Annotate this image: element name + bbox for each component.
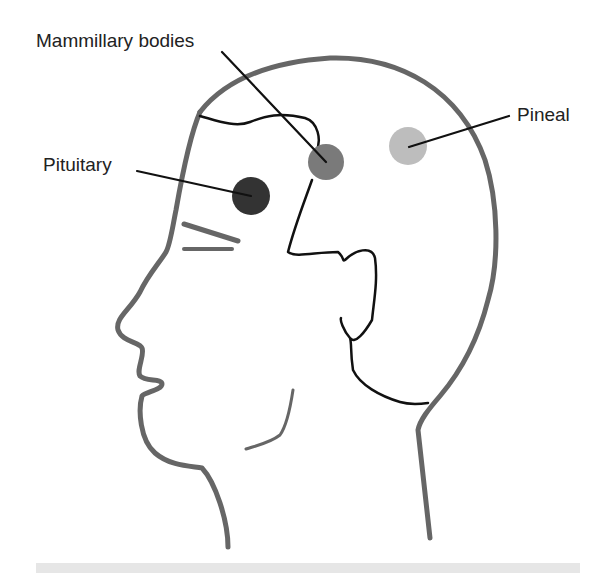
bottom-bar bbox=[36, 563, 580, 573]
pineal-label: Pineal bbox=[517, 104, 570, 125]
pituitary-label: Pituitary bbox=[43, 154, 112, 175]
head-outline bbox=[118, 58, 496, 547]
skull-back-outline bbox=[200, 58, 496, 538]
jaw-line bbox=[246, 390, 293, 449]
mammillary-bodies-label: Mammillary bodies bbox=[36, 30, 194, 51]
face-profile-outline bbox=[118, 112, 228, 547]
head-diagram: Mammillary bodies Pituitary Pineal bbox=[0, 0, 613, 573]
ear-and-jaw-contour bbox=[288, 180, 428, 404]
pineal-leader-line bbox=[409, 116, 509, 147]
pituitary-leader-line bbox=[137, 171, 251, 196]
hairline bbox=[200, 115, 319, 152]
pineal-dot bbox=[389, 127, 427, 165]
eyebrow-upper bbox=[184, 224, 238, 241]
